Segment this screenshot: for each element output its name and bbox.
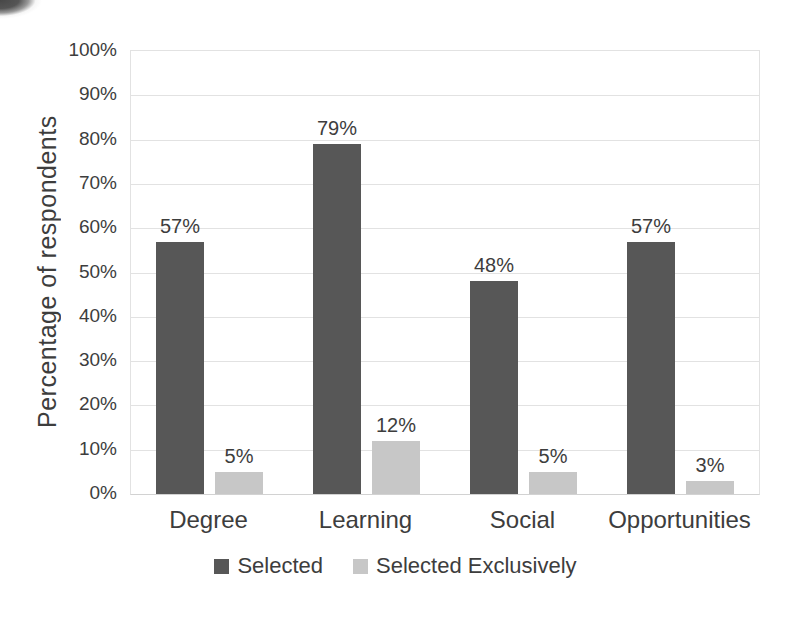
gridline — [131, 184, 759, 185]
bar-value-label: 57% — [631, 215, 671, 237]
y-axis-tick-label: 0% — [0, 481, 117, 505]
y-axis-tick-label: 80% — [0, 127, 117, 151]
bar-selected — [470, 281, 518, 494]
bar-value-label: 79% — [317, 117, 357, 139]
bar-selected — [156, 242, 204, 495]
bar-chart-figure: Percentage of respondents 0%10%20%30%40%… — [0, 0, 791, 617]
category-label-learning: Learning — [319, 506, 412, 534]
y-axis-tick-label: 30% — [0, 348, 117, 372]
bar-selected — [313, 144, 361, 494]
bar-value-label: 57% — [160, 215, 200, 237]
bar-value-label: 12% — [376, 414, 416, 436]
gridline — [131, 140, 759, 141]
bar-selected — [627, 242, 675, 495]
legend-swatch-icon — [353, 559, 368, 574]
y-axis-tick-label: 70% — [0, 171, 117, 195]
legend-item-selected-exclusively: Selected Exclusively — [353, 553, 577, 579]
y-axis-tick-label: 60% — [0, 215, 117, 239]
legend-swatch-icon — [214, 559, 229, 574]
category-label-social: Social — [490, 506, 555, 534]
category-label-opportunities: Opportunities — [608, 506, 751, 534]
bar-selected-exclusively — [686, 481, 734, 494]
legend-item-selected: Selected — [214, 553, 323, 579]
y-axis-tick-label: 40% — [0, 304, 117, 328]
y-axis-tick-label: 10% — [0, 437, 117, 461]
gridline — [131, 95, 759, 96]
y-axis-tick-label: 20% — [0, 392, 117, 416]
y-axis-tick-label: 50% — [0, 260, 117, 284]
y-axis-tick-label: 100% — [0, 38, 117, 62]
y-axis-tick-label: 90% — [0, 82, 117, 106]
bar-value-label: 5% — [225, 445, 254, 467]
bar-value-label: 3% — [696, 454, 725, 476]
chart-legend: SelectedSelected Exclusively — [0, 551, 791, 581]
bar-value-label: 48% — [474, 254, 514, 276]
y-axis-tick-labels: 0%10%20%30%40%50%60%70%80%90%100% — [0, 50, 117, 493]
bar-selected-exclusively — [215, 472, 263, 494]
legend-item-label: Selected Exclusively — [376, 553, 577, 579]
x-axis-category-labels: DegreeLearningSocialOpportunities — [130, 500, 758, 538]
category-label-degree: Degree — [169, 506, 248, 534]
legend-item-label: Selected — [237, 553, 323, 579]
bar-selected-exclusively — [529, 472, 577, 494]
bar-selected-exclusively — [372, 441, 420, 494]
bar-value-label: 5% — [539, 445, 568, 467]
scan-artifact — [0, 0, 42, 19]
plot-area: 57%5%79%12%48%5%57%3% — [130, 50, 760, 495]
